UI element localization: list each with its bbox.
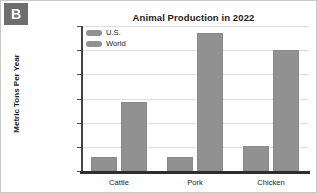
chart-screenshot: B Animal Production in 2022 Metric Tons … [0, 0, 317, 193]
legend-swatch [86, 41, 102, 47]
bar [91, 157, 117, 172]
legend-item: World [86, 39, 126, 49]
legend-swatch [86, 30, 102, 36]
bar [243, 146, 269, 171]
y-axis-line [81, 26, 83, 171]
category-label: Chicken [231, 178, 311, 187]
category-label: Pork [155, 178, 235, 187]
category-label: Cattle [79, 178, 159, 187]
legend-label: U.S. [106, 29, 121, 37]
chart-legend: U.S.World [86, 28, 126, 50]
x-axis-line [80, 171, 310, 174]
chart-container: Animal Production in 2022 Metric Tons Pe… [1, 1, 316, 192]
legend-label: World [106, 40, 126, 48]
panel-label-badge: B [4, 3, 28, 25]
bar [273, 50, 299, 171]
y-axis-title: Metric Tons Per Year [12, 31, 21, 156]
gridline [81, 26, 309, 27]
bar [121, 102, 147, 171]
bar [167, 157, 193, 172]
panel-label-text: B [11, 7, 21, 21]
bar [197, 33, 223, 171]
legend-item: U.S. [86, 28, 126, 38]
chart-title: Animal Production in 2022 [81, 12, 306, 23]
